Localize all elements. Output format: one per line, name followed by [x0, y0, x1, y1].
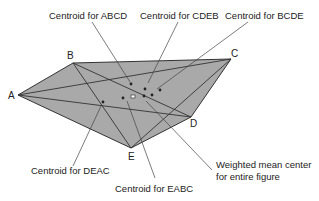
vertex-label-c: C: [231, 48, 238, 59]
label-centroid-deac: Centroid for DEAC: [31, 165, 110, 176]
vertex-label-a: A: [8, 90, 15, 101]
centroid-extra-point: [102, 101, 105, 104]
vertex-label-b: B: [67, 50, 74, 61]
pentagon-abcde: [18, 59, 231, 148]
label-centroid-cdeb: Centroid for CDEB: [140, 10, 219, 21]
centroid-bcde-point: [151, 94, 154, 97]
label-weighted-mean-line2: for entire figure: [216, 171, 280, 182]
label-centroid-abcd: Centroid for ABCD: [49, 10, 127, 21]
centroid-extra-point-2: [159, 89, 162, 92]
label-weighted-mean-line1: Weighted mean center: [216, 159, 311, 170]
weighted-mean-center-marker: [131, 95, 135, 98]
centroid-cdeb-point: [144, 88, 147, 91]
centroid-abcd-point: [130, 83, 133, 86]
vertex-label-e: E: [128, 151, 135, 162]
label-centroid-bcde: Centroid for BCDE: [225, 10, 304, 21]
vertex-label-d: D: [190, 118, 197, 129]
centroid-deac-point: [122, 97, 125, 100]
label-centroid-eabc: Centroid for EABC: [115, 183, 193, 194]
centroid-diagram: A B C D E Centroid for ABCD Centroid for…: [0, 0, 319, 201]
centroid-eabc-point: [143, 95, 146, 98]
